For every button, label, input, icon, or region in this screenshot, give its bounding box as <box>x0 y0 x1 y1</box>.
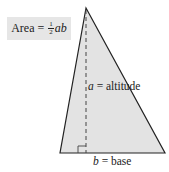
fraction-half: 12 <box>48 21 54 36</box>
formula-prefix: Area = <box>11 21 44 36</box>
altitude-label: a = altitude <box>88 80 140 92</box>
formula-variables: ab <box>55 21 67 36</box>
area-formula-box: Area = 12ab <box>7 17 71 40</box>
base-label: b = base <box>93 155 131 167</box>
